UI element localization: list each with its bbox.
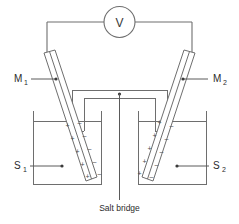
charge-plus-left-5: + (85, 173, 89, 180)
charge-plus-left-1: + (65, 122, 69, 129)
label-solution-right: S 2 (175, 160, 226, 173)
electrode-left-center-line (50, 52, 92, 180)
charge-plus-right-2: + (152, 132, 156, 139)
electrode-right-center-line (148, 52, 190, 180)
label-s2-text: S (213, 160, 220, 171)
charge-plus-left-2: + (70, 135, 74, 142)
label-m1-text: M (14, 73, 22, 84)
charge-minus-left-2: – (83, 132, 87, 139)
label-s2-leader-dot (175, 164, 178, 167)
charge-minus-right-4: – (155, 161, 159, 168)
charge-minus-left-5: – (98, 170, 102, 177)
charge-plus-left-4: + (80, 161, 84, 168)
cell-diagram-canvas: V (0, 0, 239, 224)
charge-minus-left-4: – (93, 158, 97, 165)
charge-minus-left-1: – (78, 119, 82, 126)
charge-plus-right-5: + (137, 170, 141, 177)
electrochemical-cell-diagram: V (0, 0, 239, 224)
label-s2-subscript: 2 (222, 166, 226, 173)
charge-plus-left-3: + (75, 148, 79, 155)
salt-bridge-caption: Salt bridge (99, 203, 140, 213)
charge-plus-right-4: + (142, 158, 146, 165)
label-m1-subscript: 1 (24, 79, 28, 86)
charge-plus-right-3: + (147, 145, 151, 152)
charge-minus-right-1: – (170, 122, 174, 129)
voltmeter-label: V (115, 16, 123, 30)
charge-minus-right-2: – (165, 135, 169, 142)
charge-minus-left-3: – (88, 145, 92, 152)
salt-bridge-leader (118, 92, 121, 200)
charge-minus-right-5: – (150, 173, 154, 180)
label-s1-text: S (14, 160, 21, 171)
charge-minus-right-3: – (160, 148, 164, 155)
label-solution-left: S 1 (14, 160, 64, 173)
label-m2-text: M (213, 73, 221, 84)
electrode-left[interactable] (44, 50, 97, 181)
electrode-right[interactable] (142, 50, 195, 181)
label-m1-leader-dot (54, 77, 57, 80)
charge-plus-right-1: + (157, 119, 161, 126)
label-m2-subscript: 2 (223, 79, 227, 86)
label-s1-leader-dot (60, 164, 63, 167)
label-m2-leader-dot (181, 77, 184, 80)
voltmeter[interactable]: V (104, 7, 135, 38)
label-s1-subscript: 1 (23, 166, 27, 173)
